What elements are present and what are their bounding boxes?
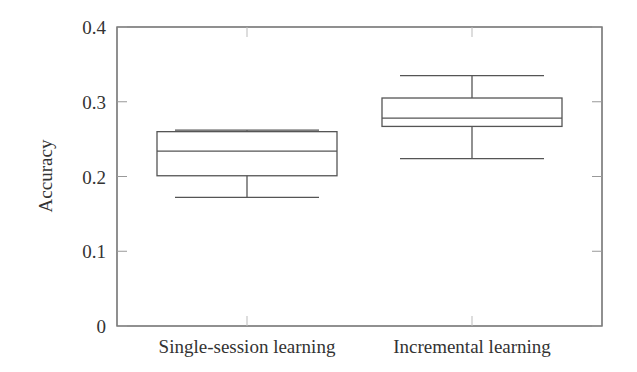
iqr-box xyxy=(382,98,562,126)
y-tick-label: 0 xyxy=(97,316,107,337)
y-tick-label: 0.4 xyxy=(82,17,106,38)
iqr-box xyxy=(157,132,337,176)
y-tick-label: 0.2 xyxy=(82,167,106,188)
box-1 xyxy=(157,130,337,197)
box-plot-chart: 00.10.20.30.4 Single-session learningInc… xyxy=(0,0,637,372)
y-tick-label: 0.1 xyxy=(82,241,106,262)
x-category-label: Incremental learning xyxy=(393,336,551,357)
box-2 xyxy=(382,76,562,159)
y-axis-ticks: 00.10.20.30.4 xyxy=(82,17,602,337)
y-tick-label: 0.3 xyxy=(82,92,106,113)
y-axis-label: Accuracy xyxy=(35,139,56,212)
x-category-label: Single-session learning xyxy=(159,336,336,357)
boxes xyxy=(157,76,562,198)
plot-frame xyxy=(117,27,602,326)
x-axis-ticks: Single-session learningIncremental learn… xyxy=(159,27,552,357)
